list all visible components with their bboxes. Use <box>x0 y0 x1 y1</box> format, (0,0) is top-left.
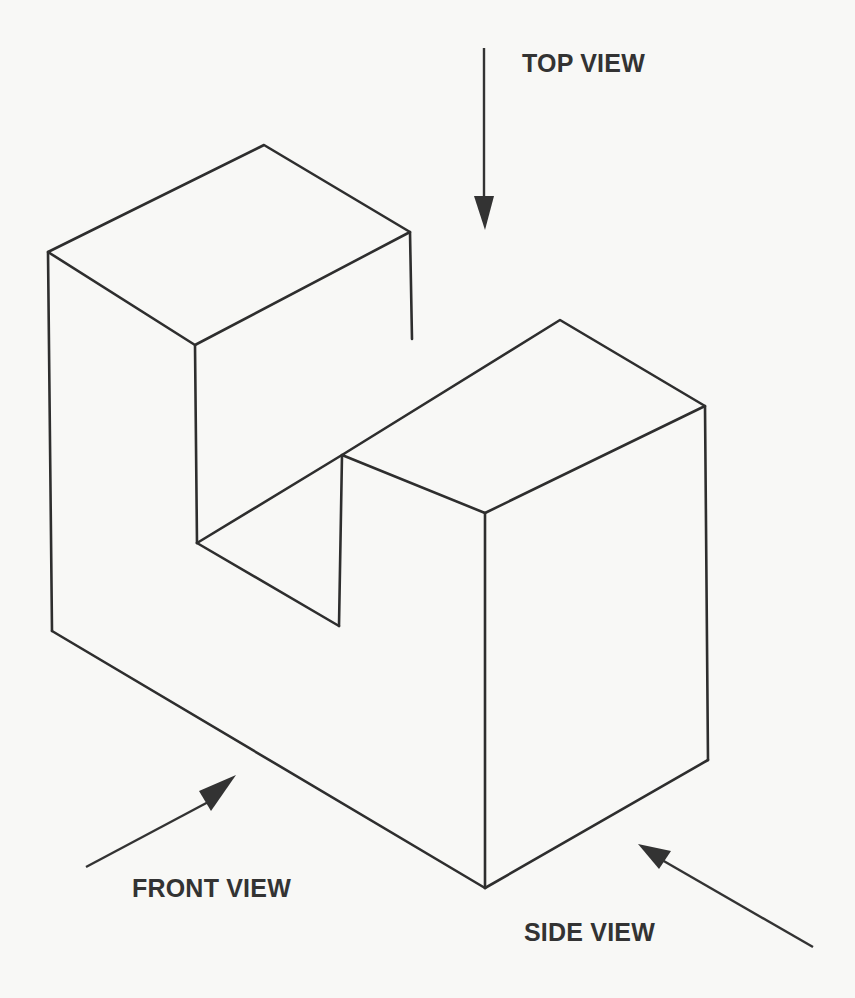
object-outline <box>48 145 708 888</box>
left-block-front-edge <box>195 345 197 543</box>
left-block-top-face <box>48 145 410 345</box>
base-side-edge <box>485 760 708 888</box>
left-block-left-edge <box>48 252 52 631</box>
right-block-right-edge <box>705 406 708 760</box>
side-view-arrow-icon <box>638 844 813 947</box>
notch-bottom-diagonal <box>197 543 339 626</box>
front-view-arrow-icon <box>86 775 236 867</box>
right-block-top-face <box>342 320 705 513</box>
drawing-page: TOP VIEW FRONT VIEW SIDE VIEW <box>0 0 855 998</box>
front-view-label: FRONT VIEW <box>132 874 291 903</box>
top-view-arrow-icon <box>474 48 494 230</box>
top-view-label: TOP VIEW <box>522 49 645 78</box>
left-block-back-edge <box>410 232 412 339</box>
isometric-drawing <box>0 0 855 998</box>
notch-floor-edge <box>197 455 342 543</box>
right-block-left-edge <box>339 455 342 626</box>
side-view-label: SIDE VIEW <box>524 918 655 947</box>
